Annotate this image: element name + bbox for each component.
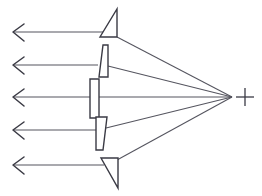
prism-3: [90, 79, 99, 118]
ray-diagram-canvas: [0, 0, 262, 196]
diagram-background: [0, 0, 262, 196]
ray-diagram-figure: [0, 0, 262, 196]
